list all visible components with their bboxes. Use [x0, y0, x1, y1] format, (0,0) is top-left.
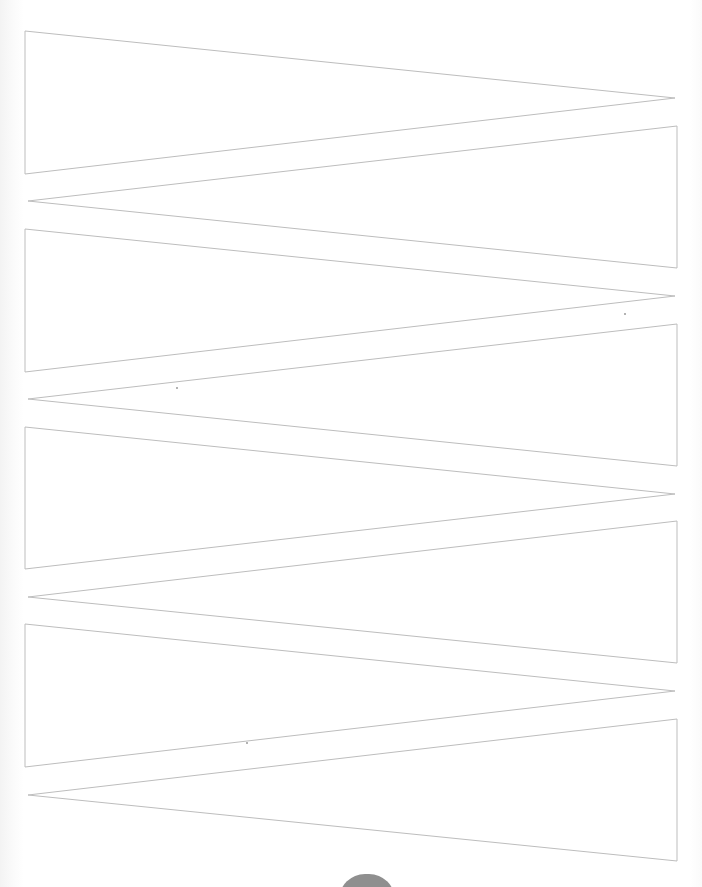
paper-speck	[246, 742, 248, 744]
pennant-template	[0, 0, 702, 887]
paper-speck	[624, 313, 626, 315]
template-page	[0, 0, 702, 887]
paper-speck	[176, 387, 178, 389]
